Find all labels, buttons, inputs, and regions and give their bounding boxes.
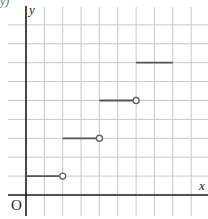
open-circle-endpoint-icon	[133, 98, 139, 104]
grid-lines	[8, 7, 208, 216]
open-circle-endpoint-icon	[96, 135, 102, 141]
open-circle-endpoint-icon	[60, 173, 66, 179]
y-axis-label: y	[29, 2, 35, 18]
step-function-chart	[0, 0, 208, 219]
axes	[8, 6, 208, 216]
corner-text-fragment: y)	[0, 0, 9, 9]
origin-label: O	[11, 197, 22, 214]
x-axis-label: x	[199, 178, 205, 194]
